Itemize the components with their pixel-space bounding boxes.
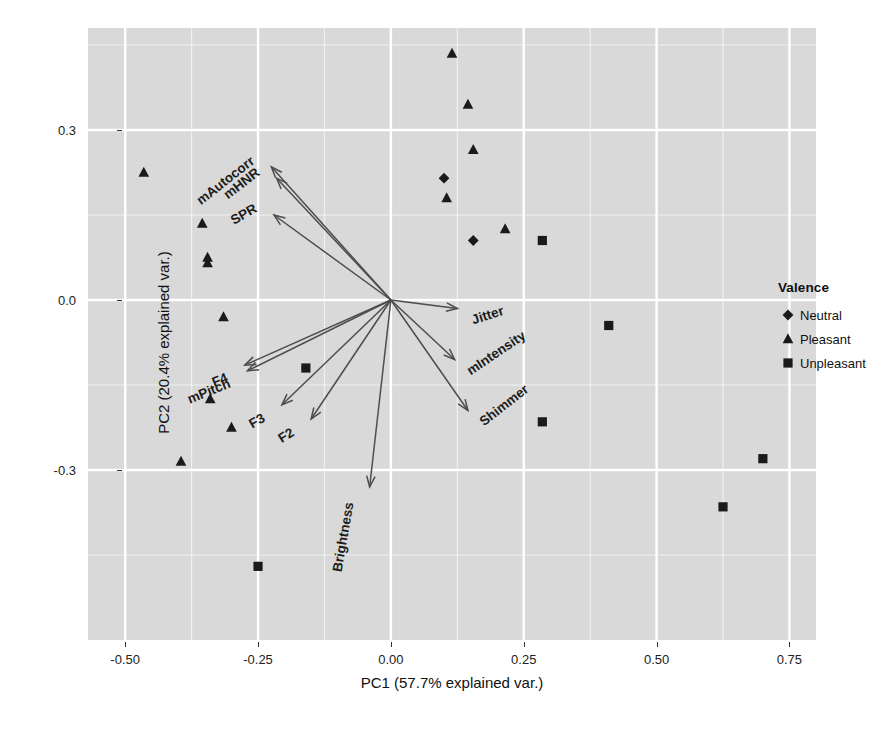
data-point-unpleasant: [253, 562, 262, 571]
x-tick-label: 0.50: [644, 652, 669, 667]
data-point-pleasant: [226, 422, 237, 432]
data-point-pleasant: [218, 311, 229, 321]
data-point-pleasant: [463, 99, 474, 109]
triangle-marker: [778, 330, 798, 348]
plot-panel: mAutocorrmHNRSPRF4mPitchF3F2BrightnessJi…: [88, 28, 816, 640]
y-axis-label: PC2 (20.4% explained var.): [155, 37, 172, 649]
legend-label: Unpleasant: [800, 356, 866, 371]
diamond-marker: [778, 306, 798, 324]
arrowhead: [311, 408, 321, 419]
loading-vector-labels: mAutocorrmHNRSPRF4mPitchF3F2BrightnessJi…: [185, 153, 532, 573]
x-axis-label: PC1 (57.7% explained var.): [88, 674, 816, 691]
vector-label-f2: F2: [275, 425, 296, 446]
vector-label-f3: F3: [246, 410, 268, 431]
x-tick-label: 0.00: [378, 652, 403, 667]
data-point-unpleasant: [538, 417, 547, 426]
x-tick-mark: [657, 642, 658, 647]
vector-arrow-f3: [282, 300, 391, 405]
plot-canvas: mAutocorrmHNRSPRF4mPitchF3F2BrightnessJi…: [88, 28, 816, 640]
legend-label: Pleasant: [800, 332, 851, 347]
legend: Valence NeutralPleasantUnpleasant: [778, 280, 888, 376]
legend-items: NeutralPleasantUnpleasant: [778, 304, 888, 374]
legend-item-unpleasant[interactable]: Unpleasant: [778, 352, 888, 374]
x-tick-label: -0.50: [110, 652, 140, 667]
data-point-unpleasant: [718, 502, 727, 511]
data-point-unpleasant: [604, 321, 613, 330]
vector-arrow-spr: [274, 215, 391, 300]
data-point-pleasant: [197, 218, 208, 228]
x-tick-mark: [789, 642, 790, 647]
legend-title: Valence: [778, 280, 888, 295]
grid-lines: [88, 28, 816, 640]
data-point-neutral: [468, 235, 479, 246]
data-point-pleasant: [138, 167, 149, 177]
vector-arrow-mpitch: [247, 300, 390, 371]
legend-item-neutral[interactable]: Neutral: [778, 304, 888, 326]
y-axis-ticks: 0.30.0-0.3: [36, 0, 76, 733]
y-tick-mark: [117, 470, 122, 471]
y-tick-label: 0.0: [58, 293, 76, 308]
vector-label-spr: SPR: [228, 200, 260, 227]
y-tick-label: 0.3: [58, 123, 76, 138]
x-tick-mark: [258, 642, 259, 647]
data-point-pleasant: [500, 223, 511, 233]
vector-label-brightness: Brightness: [330, 501, 357, 573]
x-tick-label: -0.25: [243, 652, 273, 667]
y-tick-label: -0.3: [54, 463, 76, 478]
data-point-neutral: [439, 173, 450, 184]
data-point-pleasant: [447, 48, 458, 58]
x-tick-mark: [125, 642, 126, 647]
vector-arrow-mhnr: [277, 178, 391, 300]
square-marker: [778, 354, 798, 372]
pca-biplot-figure: mAutocorrmHNRSPRF4mPitchF3F2BrightnessJi…: [0, 0, 891, 733]
x-tick-label: 0.75: [777, 652, 802, 667]
square-marker: [783, 358, 792, 367]
data-point-pleasant: [176, 456, 187, 466]
data-point-unpleasant: [538, 236, 547, 245]
diamond-marker: [783, 310, 794, 321]
data-point-pleasant: [441, 192, 452, 202]
x-tick-mark: [391, 642, 392, 647]
vector-label-jitter: Jitter: [470, 303, 507, 328]
y-tick-mark: [117, 130, 122, 131]
legend-item-pleasant[interactable]: Pleasant: [778, 328, 888, 350]
x-tick-label: 0.25: [511, 652, 536, 667]
vector-arrow-jitter: [391, 300, 457, 309]
vector-arrow-shimmer: [391, 300, 468, 411]
data-point-unpleasant: [758, 454, 767, 463]
y-tick-mark: [117, 300, 122, 301]
vector-arrow-mintensity: [391, 300, 455, 360]
x-tick-mark: [524, 642, 525, 647]
data-point-unpleasant: [301, 363, 310, 372]
vector-label-mintensity: mIntensity: [464, 328, 529, 378]
legend-label: Neutral: [800, 308, 842, 323]
triangle-marker: [783, 333, 794, 343]
data-point-pleasant: [468, 144, 479, 154]
